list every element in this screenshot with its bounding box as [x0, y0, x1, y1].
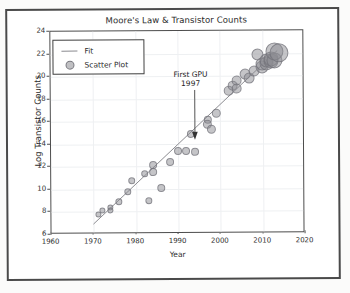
- x-tick-label: 2010: [247, 236, 277, 244]
- y-tick-label: 12: [26, 162, 46, 170]
- x-tick-labels: 1960197019801990200020102020: [7, 9, 341, 11]
- y-tick-label: 16: [26, 117, 46, 125]
- y-tick-label: 20: [26, 72, 46, 80]
- x-tick-mark: [305, 230, 306, 233]
- legend-marker-icon: [57, 60, 81, 69]
- scatter-point: [232, 83, 242, 93]
- legend[interactable]: Fit Scatter Plot: [52, 39, 144, 75]
- legend-entry-scatter[interactable]: Scatter Plot: [57, 57, 139, 72]
- y-tick-label: 14: [26, 140, 46, 148]
- annotation-line1: First GPU: [160, 70, 222, 79]
- y-tick-label: 24: [25, 27, 45, 35]
- scatter-point: [116, 198, 123, 205]
- screenshot-root: Moore's Law & Transistor Counts Log Tran…: [0, 0, 350, 293]
- annotation-first-gpu: First GPU 1997: [160, 70, 222, 88]
- legend-entry-fit[interactable]: Fit: [57, 43, 139, 58]
- matplotlib-figure: Moore's Law & Transistor Counts Log Tran…: [7, 9, 343, 283]
- y-tick-label: 18: [26, 94, 46, 102]
- y-tick-label: 22: [25, 49, 45, 57]
- scatter-point: [174, 146, 182, 154]
- x-tick-label: 2000: [205, 237, 235, 245]
- y-tick-label: 8: [26, 207, 46, 215]
- annotation-arrow-icon: [190, 90, 200, 140]
- scatter-point: [99, 207, 105, 213]
- scatter-point: [149, 168, 157, 176]
- tick-marks: [7, 9, 341, 11]
- legend-line-icon: [57, 50, 81, 51]
- scatter-point: [182, 146, 190, 154]
- scatter-point: [128, 177, 135, 184]
- x-tick-label: 1980: [120, 237, 150, 245]
- y-tick-label: 10: [26, 185, 46, 193]
- y-tick-labels: 681012141618202224: [7, 9, 341, 11]
- scatter-point: [141, 170, 148, 177]
- annotation-line2: 1997: [160, 79, 222, 88]
- scatter-point: [166, 158, 174, 166]
- scatter-point: [124, 188, 131, 195]
- legend-label-scatter: Scatter Plot: [81, 60, 128, 69]
- y-tick-mark: [48, 234, 51, 235]
- x-tick-label: 2020: [290, 236, 320, 244]
- y-tick-label: 6: [27, 230, 47, 238]
- chart-title: Moore's Law & Transistor Counts: [49, 14, 303, 26]
- scatter-point: [211, 109, 220, 118]
- x-axis-label: Year: [51, 249, 305, 260]
- figure-frame: Moore's Law & Transistor Counts Log Tran…: [5, 7, 341, 281]
- x-tick-label: 1990: [163, 237, 193, 245]
- x-tick-label: 1970: [78, 237, 108, 245]
- x-tick-label: 1960: [36, 238, 66, 246]
- scatter-point: [108, 207, 114, 213]
- scatter-point: [145, 197, 152, 204]
- legend-label-fit: Fit: [81, 46, 93, 55]
